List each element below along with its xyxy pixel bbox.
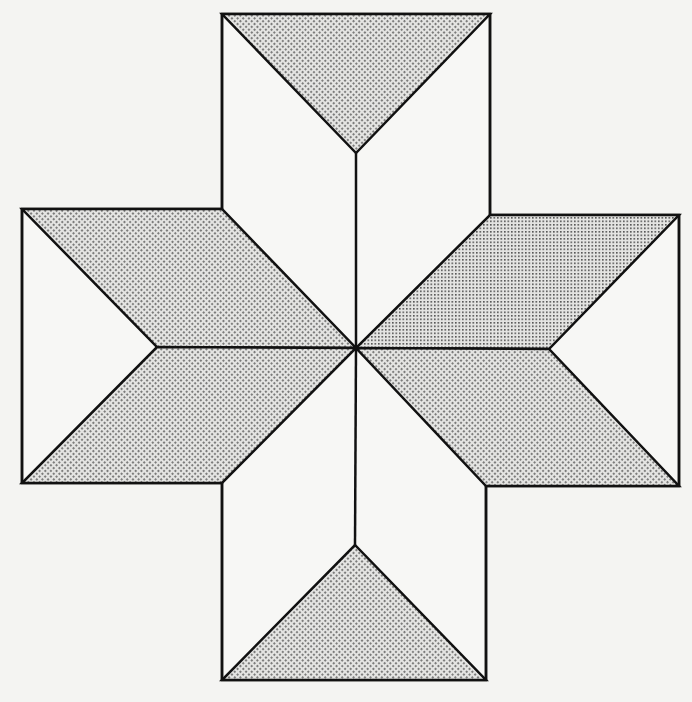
star-diagram — [0, 0, 692, 702]
center-line-bottom — [355, 348, 356, 545]
center-point — [354, 346, 358, 350]
diagram-svg — [0, 0, 692, 702]
